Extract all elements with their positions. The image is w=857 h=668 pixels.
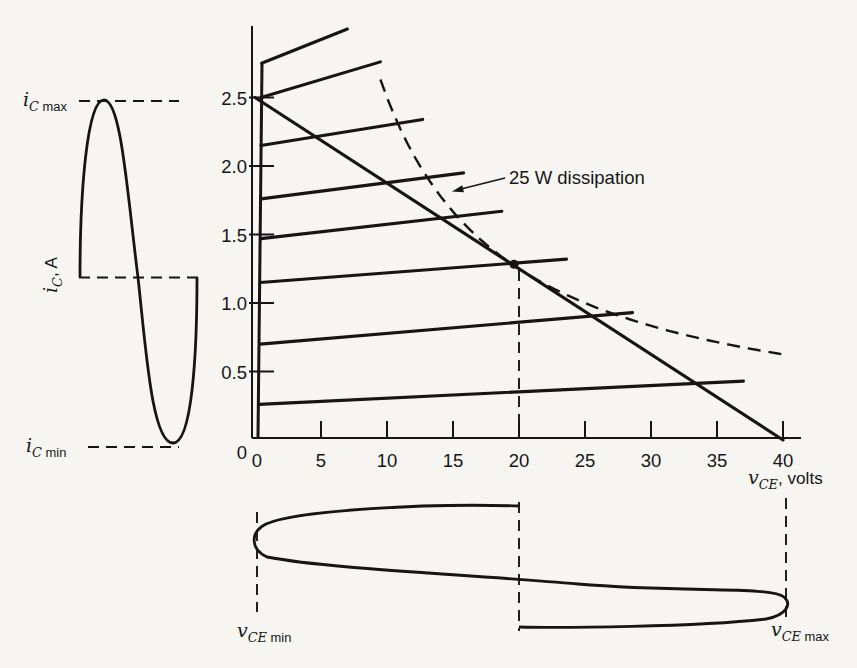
characteristics-chart: 051015202530354000.51.01.52.02.5vCE, vol… [0,0,857,668]
dissipation-annotation: 25 W dissipation [452,167,645,192]
characteristic-curve-7 [260,313,632,345]
x-tick-label-15: 15 [443,450,464,471]
y-tick-label-1.5: 1.5 [221,225,247,246]
vce-sine-curve [254,505,787,627]
curve-steep-edge [258,64,262,437]
x-tick-label-10: 10 [377,450,398,471]
y-tick-label-2.5: 2.5 [221,88,247,109]
x-tick-label-25: 25 [575,450,596,471]
x-tick-label-40: 40 [773,450,794,471]
x-axis-label: vCE, volts [748,466,823,492]
characteristic-curve-1 [262,29,348,63]
annotation-arrowhead-icon [452,185,464,192]
ic-max-label: iC max [23,88,67,114]
x-tick-label-35: 35 [707,450,728,471]
y-tick-label-2.0: 2.0 [221,156,247,177]
x-tick-label-0: 0 [252,450,262,471]
characteristic-curve-4 [261,173,464,199]
x-tick-label-5: 5 [316,450,326,471]
dissipation-label: 25 W dissipation [509,167,645,188]
q-point-group [509,260,519,437]
characteristic-curve-8 [259,381,743,404]
y-tick-label-1.0: 1.0 [221,293,247,314]
vce-max-label: vCE max [771,618,830,644]
ic-min-label: iC min [26,434,66,460]
annotation-arrow-line [457,178,505,190]
x-tick-label-20: 20 [509,450,530,471]
y-tick-label-0: 0 [237,442,247,463]
characteristic-curve-2 [261,62,380,98]
textbook-figure: 051015202530354000.51.01.52.02.5vCE, vol… [0,0,857,668]
q-point-dot [509,260,518,269]
y-axis-label: iC, A [39,256,65,293]
y-tick-label-0.5: 0.5 [221,362,247,383]
characteristic-curves [258,29,743,437]
vce-min-label: vCE min [237,619,291,645]
x-tick-label-30: 30 [641,450,662,471]
ic-sine-curve [80,100,197,443]
collector-voltage-waveform: vCE minvCE max [237,498,830,645]
